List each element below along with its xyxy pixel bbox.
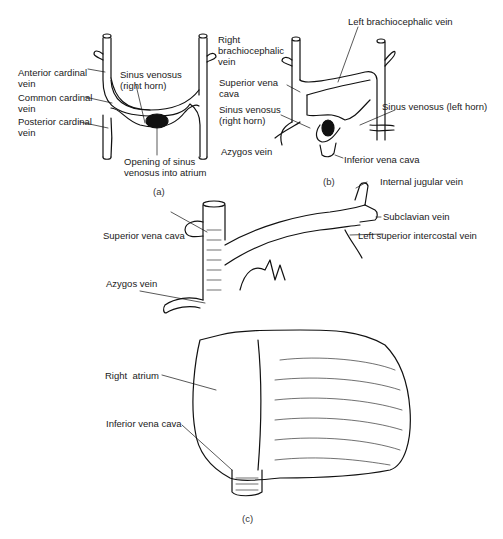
label-sinus-venosus-left-horn: Sinus venosus (left horn) <box>382 101 487 112</box>
panel-b-drawing <box>275 27 395 158</box>
label-opening-sinus-venosus: Opening of sinus venosus into atrium <box>124 156 206 178</box>
label-sinus-venosus-right-horn-a: Sinus venosus (right horn) <box>120 69 182 91</box>
label-azygos-vein-c: Azygos vein <box>106 278 157 289</box>
panel-a-drawing <box>80 34 216 159</box>
label-superior-vena-cava-b: Superior vena cava <box>219 77 278 99</box>
label-azygos-vein-b: Azygos vein <box>221 146 272 157</box>
label-sinus-venosus-right-horn-b: Sinus venosus (right horn) <box>219 104 281 126</box>
caption-c: (c) <box>242 513 253 524</box>
label-posterior-cardinal-vein: Posterior cardinal vein <box>18 116 92 138</box>
label-anterior-cardinal-vein: Anterior cardinal vein <box>18 67 87 89</box>
label-common-cardinal-vein: Common cardinal vein <box>18 92 92 114</box>
label-left-brachiocephalic-vein: Left brachiocephalic vein <box>348 16 453 27</box>
label-subclavian-vein: Subclavian vein <box>383 211 450 222</box>
label-left-superior-intercostal-vein: Left superior intercostal vein <box>358 230 477 241</box>
label-superior-vena-cava-c: Superior vena cava <box>103 230 185 241</box>
label-inferior-vena-cava-c: Inferior vena cava <box>106 418 182 429</box>
label-inferior-vena-cava-b: Inferior vena cava <box>344 154 420 165</box>
label-internal-jugular-vein: Internal jugular vein <box>380 176 463 187</box>
label-right-atrium: Right atrium <box>105 370 159 381</box>
caption-b: (b) <box>323 176 335 187</box>
label-right-brachiocephalic-vein: Right brachiocephalic vein <box>218 34 284 67</box>
caption-a: (a) <box>153 186 165 197</box>
